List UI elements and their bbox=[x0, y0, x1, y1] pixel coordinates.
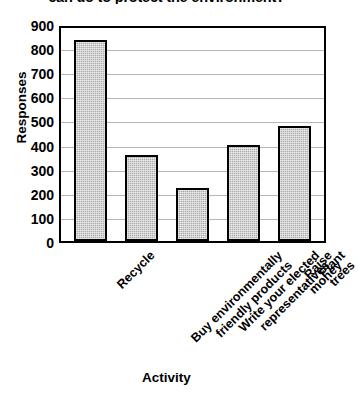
bar-series bbox=[61, 28, 324, 241]
chart-title: can do to protect the environment? bbox=[0, 0, 333, 4]
bar bbox=[176, 188, 209, 241]
bar bbox=[74, 40, 107, 241]
y-axis-tick-label: 100 bbox=[8, 212, 54, 226]
y-axis-tick-label: 400 bbox=[8, 140, 54, 154]
bar bbox=[227, 145, 260, 241]
x-axis-category-labels: RecycleBuy environmentally friendly prod… bbox=[59, 243, 326, 355]
bar-slot bbox=[167, 28, 218, 241]
bar-slot bbox=[65, 28, 116, 241]
y-axis-tick-labels: 9008007006005004003002001000 bbox=[8, 26, 54, 243]
y-axis-tick-label: 800 bbox=[8, 43, 54, 57]
y-axis-tick-label: 0 bbox=[8, 236, 54, 250]
y-axis-tick-label: 500 bbox=[8, 115, 54, 129]
y-axis-tick-label: 900 bbox=[8, 19, 54, 33]
bar-slot bbox=[116, 28, 167, 241]
y-axis-tick-label: 300 bbox=[8, 164, 54, 178]
bar bbox=[278, 126, 311, 241]
x-axis-category-label: Recycle bbox=[115, 249, 158, 292]
x-axis-title: Activity bbox=[0, 370, 333, 385]
bar-slot bbox=[269, 28, 320, 241]
y-axis-tick-label: 700 bbox=[8, 67, 54, 81]
bar bbox=[125, 155, 158, 241]
y-axis-tick-label: 600 bbox=[8, 91, 54, 105]
y-axis-tick-label: 200 bbox=[8, 188, 54, 202]
plot-area bbox=[59, 26, 326, 243]
bar-slot bbox=[218, 28, 269, 241]
